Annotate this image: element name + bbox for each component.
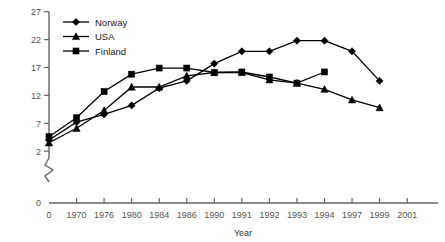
data-point	[266, 74, 272, 80]
y-tick-label: 2	[36, 147, 41, 157]
y-tick-label: 17	[31, 63, 41, 73]
x-tick-label: 1970	[67, 210, 87, 220]
x-tick-label: 0	[46, 210, 51, 220]
data-point	[128, 102, 135, 109]
data-point	[294, 80, 300, 86]
x-tick-label: 1976	[94, 210, 114, 220]
legend-label: Norway	[95, 17, 127, 28]
y-tick-label-zero: 0	[36, 198, 41, 208]
data-point	[156, 65, 162, 71]
data-point	[239, 69, 245, 75]
data-point	[184, 65, 190, 71]
y-tick-label: 27	[31, 7, 41, 17]
legend-marker	[72, 18, 79, 25]
x-tick-label: 1980	[122, 210, 142, 220]
y-axis-break-icon	[45, 158, 53, 182]
series-line	[49, 73, 380, 143]
data-point	[74, 115, 80, 121]
legend-label: USA	[95, 31, 115, 42]
x-tick-label: 1992	[259, 210, 279, 220]
x-tick-label: 1990	[204, 210, 224, 220]
chart-canvas: 27221712720 0197019761980198419861990199…	[0, 0, 445, 242]
chart-legend: NorwayUSAFinland	[63, 17, 127, 57]
x-tick-label: 1986	[177, 210, 197, 220]
x-tick-label: 1991	[232, 210, 252, 220]
data-point	[211, 70, 217, 76]
series-usa	[45, 69, 383, 146]
legend-item-norway: Norway	[63, 17, 127, 28]
legend-item-finland: Finland	[63, 46, 126, 57]
data-point	[322, 69, 328, 75]
y-tick-label: 7	[36, 119, 41, 129]
data-point	[73, 125, 80, 132]
legend-item-usa: USA	[63, 31, 115, 42]
x-tick-label: 1984	[149, 210, 169, 220]
legend-label: Finland	[95, 46, 126, 57]
data-point	[293, 37, 300, 44]
x-tick-label: 1999	[370, 210, 390, 220]
data-point	[211, 60, 218, 67]
data-point	[266, 48, 273, 55]
x-tick-label: 2001	[397, 210, 417, 220]
x-tick-label: 1993	[287, 210, 307, 220]
data-point	[101, 88, 107, 94]
x-axis-title: Year	[234, 228, 252, 238]
line-chart: 27221712720 0197019761980198419861990199…	[0, 0, 445, 242]
x-tick-label: 1994	[314, 210, 334, 220]
data-point	[129, 71, 135, 77]
data-point	[238, 48, 245, 55]
data-point	[46, 134, 52, 140]
y-tick-label: 12	[31, 91, 41, 101]
data-point	[321, 37, 328, 44]
x-axis-ticks: 0197019761980198419861990199119921993199…	[46, 198, 417, 220]
legend-marker	[73, 48, 79, 54]
x-tick-label: 1997	[342, 210, 362, 220]
y-tick-label: 22	[31, 35, 41, 45]
